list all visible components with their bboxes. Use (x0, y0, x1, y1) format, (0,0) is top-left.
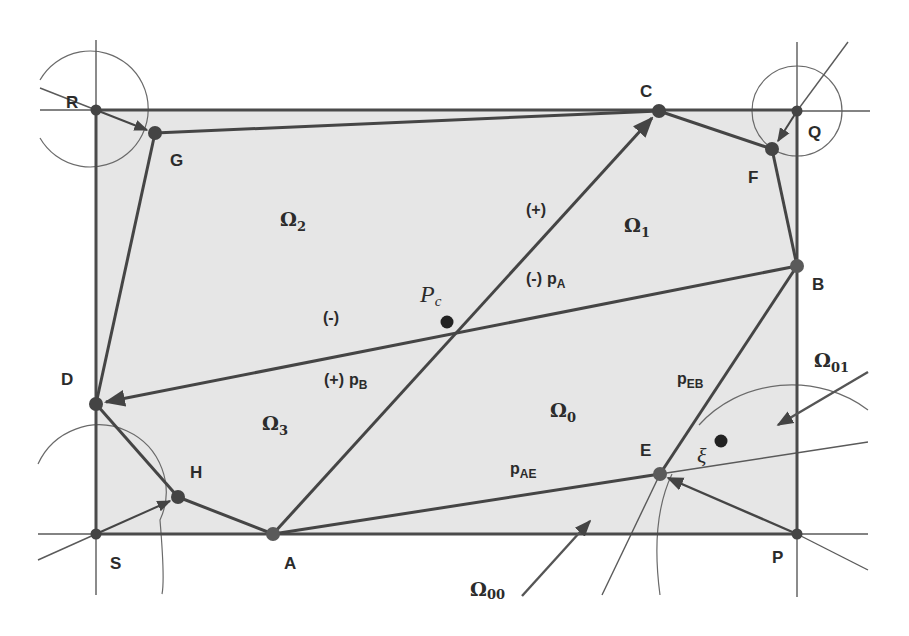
partition-diagram: R G C Q F B D H S A E P Ω2 Ω1 Ω3 Ω0 Ω01 … (0, 0, 909, 636)
label-plus-top: (+) (526, 201, 546, 218)
label-h: H (190, 463, 202, 482)
label-f: F (748, 168, 758, 187)
label-g: G (170, 151, 183, 170)
label-a: A (284, 554, 296, 573)
label-r: R (66, 93, 78, 112)
node-f (765, 142, 779, 156)
node-b (790, 259, 804, 273)
node-c (652, 104, 666, 118)
label-c: C (640, 82, 652, 101)
node-r (91, 105, 102, 116)
node-e (653, 467, 667, 481)
node-a (266, 527, 280, 541)
region-omega01: Ω01 (814, 349, 849, 375)
label-q: Q (808, 123, 821, 142)
node-d (89, 397, 103, 411)
node-q (792, 106, 803, 117)
region-omega00: Ω00 (470, 578, 505, 602)
point-xi (715, 435, 728, 448)
label-b: B (812, 275, 824, 294)
label-minus-left: (-) (323, 309, 339, 326)
label-e: E (640, 441, 651, 460)
label-s: S (110, 554, 121, 573)
point-pc (441, 316, 454, 329)
label-xi: ξ (697, 443, 707, 468)
node-g (148, 126, 162, 140)
node-s (91, 529, 102, 540)
node-p (792, 529, 803, 540)
label-p: P (772, 548, 783, 567)
label-d: D (61, 370, 73, 389)
node-h (171, 490, 185, 504)
